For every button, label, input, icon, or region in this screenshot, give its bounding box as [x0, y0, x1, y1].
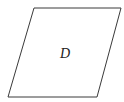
region-label-d: D — [59, 46, 70, 61]
diagram-canvas: D — [0, 0, 124, 102]
